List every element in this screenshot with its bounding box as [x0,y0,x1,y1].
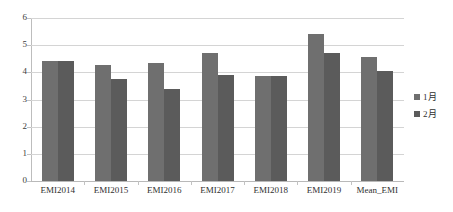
y-tick-mark [27,181,31,182]
bars-layer [31,18,404,181]
x-tick-label: Mean_EMI [351,185,404,196]
y-tick-label: 5 [3,40,27,49]
x-tick-label: EMI2017 [191,185,244,196]
legend-label: 1月 [423,92,437,102]
bar[interactable] [218,75,234,181]
y-tick-mark [27,72,31,73]
legend-swatch-icon [414,94,420,100]
bar[interactable] [58,61,74,181]
bar-group [308,18,340,181]
bar[interactable] [308,34,324,182]
y-tick-mark [27,127,31,128]
y-tick-mark [27,100,31,101]
x-tick-label: EMI2019 [297,185,350,196]
y-tick-mark [27,154,31,155]
y-tick-label: 4 [3,67,27,76]
bar[interactable] [255,76,271,181]
y-tick-mark [27,45,31,46]
legend-swatch-icon [414,111,420,117]
bar-chart: 0123456 EMI2014EMI2015EMI2016EMI2017EMI2… [0,0,453,212]
legend-item[interactable]: 2月 [414,105,453,122]
bar-group [42,18,74,181]
gridline-0 [31,181,404,182]
chart-legend: 1月2月 [414,88,453,122]
bar[interactable] [164,89,180,181]
x-tick-label: EMI2016 [138,185,191,196]
bar-group [95,18,127,181]
y-tick-label: 2 [3,122,27,131]
bar-group [148,18,180,181]
x-tick-mark [244,181,245,185]
bar-group [202,18,234,181]
bar[interactable] [361,57,377,181]
bar[interactable] [271,76,287,181]
bar-group [361,18,393,181]
legend-label: 2月 [423,109,437,119]
x-axis-labels: EMI2014EMI2015EMI2016EMI2017EMI2018EMI20… [31,185,404,201]
y-tick-label: 1 [3,149,27,158]
y-axis-labels: 0123456 [0,0,27,212]
y-tick-label: 6 [3,13,27,22]
y-tick-mark [27,18,31,19]
bar[interactable] [111,79,127,181]
bar-group [255,18,287,181]
x-tick-label: EMI2014 [31,185,84,196]
legend-item[interactable]: 1月 [414,88,453,105]
x-tick-mark [84,181,85,185]
bar[interactable] [202,53,218,181]
x-tick-mark [138,181,139,185]
bar[interactable] [42,61,58,181]
bar[interactable] [324,53,340,181]
y-tick-label: 3 [3,95,27,104]
bar[interactable] [148,63,164,181]
y-tick-label: 0 [3,176,27,185]
x-tick-mark [297,181,298,185]
x-tick-label: EMI2015 [84,185,137,196]
x-tick-label: EMI2018 [244,185,297,196]
x-tick-mark [191,181,192,185]
bar[interactable] [95,65,111,181]
x-tick-mark [351,181,352,185]
bar[interactable] [377,71,393,181]
